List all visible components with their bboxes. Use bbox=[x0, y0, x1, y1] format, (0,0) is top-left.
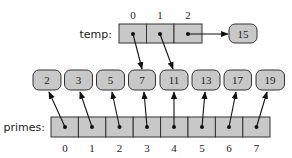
temp-array: temp: 0 1 2 bbox=[80, 9, 228, 69]
node-value: 5 bbox=[108, 74, 114, 86]
node-5: 5 bbox=[97, 70, 125, 90]
node-value: 7 bbox=[139, 74, 145, 86]
temp-index-0: 0 bbox=[130, 9, 136, 21]
primes-index-6: 6 bbox=[226, 142, 232, 154]
temp-index-2: 2 bbox=[185, 9, 191, 21]
primes-label: primes: bbox=[4, 121, 45, 134]
node-15: 15 bbox=[229, 24, 257, 43]
node-2: 2 bbox=[33, 70, 61, 90]
node-7: 7 bbox=[129, 70, 156, 90]
primes-index-1: 1 bbox=[89, 142, 95, 154]
primes-index-7: 7 bbox=[254, 142, 260, 154]
node-value: 11 bbox=[169, 74, 180, 86]
node-19: 19 bbox=[256, 70, 285, 90]
primes-index-3: 3 bbox=[144, 142, 150, 154]
node-value: 2 bbox=[44, 74, 50, 86]
primes-index-4: 4 bbox=[171, 142, 177, 154]
node-11: 11 bbox=[160, 70, 188, 90]
node-value: 19 bbox=[265, 74, 277, 86]
array-pointer-diagram: temp: 0 1 2 15 2 3 5 7 11 13 17 19 prime… bbox=[0, 0, 292, 158]
node-value: 13 bbox=[201, 74, 213, 86]
primes-index-5: 5 bbox=[199, 142, 205, 154]
primes-array: primes: 0 1 2 3 4 5 6 7 bbox=[4, 92, 270, 154]
node-17: 17 bbox=[224, 70, 252, 90]
node-value: 3 bbox=[76, 74, 82, 86]
node-3: 3 bbox=[65, 70, 93, 90]
node-13: 13 bbox=[192, 70, 220, 90]
value-nodes: 2 3 5 7 11 13 17 19 bbox=[33, 70, 285, 90]
node-15-value: 15 bbox=[238, 28, 250, 40]
node-value: 17 bbox=[232, 74, 244, 86]
primes-index-0: 0 bbox=[62, 142, 68, 154]
temp-index-1: 1 bbox=[157, 9, 163, 21]
temp-label: temp: bbox=[80, 28, 112, 41]
primes-index-2: 2 bbox=[117, 142, 123, 154]
